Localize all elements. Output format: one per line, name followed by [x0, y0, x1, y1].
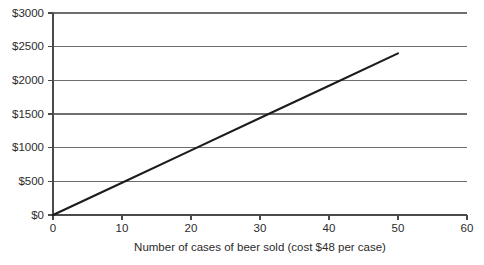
chart-canvas: $0$500$1000$1500$2000$2500$3000 01020304… [0, 0, 484, 265]
x-tick-label: 20 [185, 222, 198, 234]
line-chart: $0$500$1000$1500$2000$2500$3000 01020304… [0, 0, 484, 265]
y-tick-label: $1000 [12, 141, 44, 153]
y-tick-label: $3000 [12, 7, 44, 19]
y-tick-label: $500 [18, 175, 44, 187]
x-tick-label: 40 [323, 222, 336, 234]
x-axis-title: Number of cases of beer sold (cost $48 p… [134, 241, 386, 253]
y-tick-label: $2500 [12, 40, 44, 52]
x-tick-label: 50 [392, 222, 405, 234]
y-tick-label: $0 [31, 209, 44, 221]
y-tick-label: $1500 [12, 108, 44, 120]
x-tick-label: 30 [254, 222, 267, 234]
y-tick-label: $2000 [12, 74, 44, 86]
chart-background [0, 0, 484, 265]
x-tick-label: 0 [50, 222, 56, 234]
x-tick-label: 60 [461, 222, 474, 234]
x-tick-label: 10 [116, 222, 129, 234]
